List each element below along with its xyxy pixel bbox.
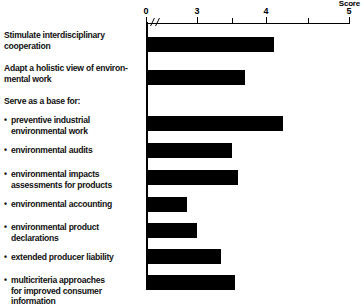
- x-tick-mark-4-5: [308, 18, 309, 24]
- x-tick-mark-3: [197, 17, 198, 24]
- category-label-serve-as-a-base-for: Serve as a base for:: [4, 96, 80, 107]
- x-axis-line: [146, 23, 349, 24]
- category-label-preventive-industrial-environmental-work: preventive industrial environmental work: [4, 115, 90, 136]
- bar-adapt-holistic-view: [147, 70, 245, 85]
- x-tick-label-4: 4: [263, 6, 268, 16]
- category-label-environmental-audits: environmental audits: [4, 145, 92, 156]
- axis-break-mark-right: [155, 18, 160, 26]
- x-tick-mark-3-5: [232, 18, 233, 24]
- bar-extended-producer-liability: [147, 249, 221, 264]
- bar-environmental-accounting: [147, 197, 187, 212]
- bar-multicriteria-approaches: [147, 275, 235, 290]
- x-tick-label-0: 0: [143, 6, 148, 16]
- category-label-extended-producer-liability: extended producer liability: [4, 252, 114, 263]
- category-label-multicriteria-approaches: multicriteria approaches for improved co…: [4, 275, 105, 307]
- category-label-environmental-product-declarations: environmental product declarations: [4, 222, 99, 243]
- x-tick-label-3: 3: [194, 6, 199, 16]
- x-tick-mark-5: [349, 17, 350, 24]
- category-label-environmental-accounting: environmental accounting: [4, 199, 112, 210]
- bar-environmental-impacts-assessments: [147, 170, 238, 185]
- bar-stimulate-interdisciplinary-cooperation: [147, 37, 274, 52]
- bar-environmental-product-declarations: [147, 223, 197, 238]
- category-label-stimulate-interdisciplinary-cooperation: Stimulate interdisciplinary cooperation: [4, 30, 105, 51]
- x-tick-mark-4: [266, 17, 267, 24]
- x-tick-label-5: 5: [346, 6, 351, 16]
- bar-environmental-audits: [147, 143, 232, 158]
- bar-preventive-industrial-environmental-work: [147, 116, 283, 131]
- category-label-environmental-impacts-assessments: environmental impacts assessments for pr…: [4, 169, 112, 190]
- category-label-adapt-holistic-view: Adapt a holistic view of environ- mental…: [4, 63, 128, 84]
